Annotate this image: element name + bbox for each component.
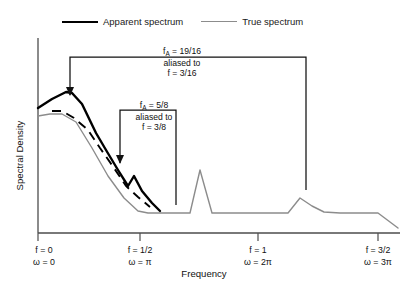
annotation-5-8-line2: aliased to [118, 112, 190, 123]
x-tick-label-1-w: ω = π [112, 257, 168, 269]
x-tick-label-3-f: f = 3/2 [350, 245, 406, 257]
chart-figure: Apparent spectrum True spectrum fA = 19/… [0, 0, 408, 294]
legend-swatch-apparent-icon [62, 21, 98, 23]
annotation-19-16-line1: fA = 19/16 [128, 46, 236, 58]
x-tick-label-0: f = 0 ω = 0 [18, 245, 70, 268]
legend-label-apparent: Apparent spectrum [103, 16, 183, 27]
x-tick-label-1-f: f = 1/2 [112, 245, 168, 257]
x-tick-label-2: f = 1 ω = 2π [230, 245, 286, 268]
annotation-5-8-line3: f = 3/8 [118, 122, 190, 133]
annotation-19-16-line3: f = 3/16 [128, 68, 236, 79]
x-tick-label-3-w: ω = 3π [350, 257, 406, 269]
annotation-text-5-8: fA = 5/8 aliased to f = 3/8 [118, 100, 190, 133]
chart-legend: Apparent spectrum True spectrum [62, 16, 303, 27]
x-tick-label-3: f = 3/2 ω = 3π [350, 245, 406, 268]
x-tick-label-0-f: f = 0 [18, 245, 70, 257]
x-tick-label-1: f = 1/2 ω = π [112, 245, 168, 268]
legend-entry-apparent: Apparent spectrum [62, 16, 183, 27]
annotation-5-8-line1: fA = 5/8 [118, 100, 190, 112]
x-tick-label-0-w: ω = 0 [18, 257, 70, 269]
annotation-5-8-value: = 5/8 [146, 100, 168, 110]
annotation-19-16-value: = 19/16 [170, 46, 201, 56]
legend-label-true: True spectrum [242, 16, 303, 27]
x-tick-label-2-w: ω = 2π [230, 257, 286, 269]
true-spectrum-curve [38, 114, 398, 228]
x-tick-label-2-f: f = 1 [230, 245, 286, 257]
annotation-text-19-16: fA = 19/16 aliased to f = 3/16 [128, 46, 236, 79]
legend-swatch-true-icon [201, 21, 237, 22]
legend-entry-true: True spectrum [201, 16, 303, 27]
annotation-19-16-line2: aliased to [128, 58, 236, 69]
y-axis-label: Spectral Density [14, 101, 25, 211]
x-axis-label: Frequency [0, 268, 408, 279]
